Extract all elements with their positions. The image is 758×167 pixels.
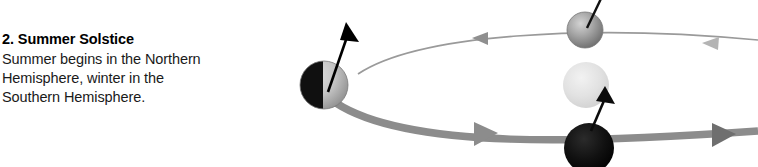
- caption-body: Summer begins in the Northern Hemisphere…: [2, 50, 287, 107]
- orbit-near-band: [336, 103, 758, 147]
- orbit-near-arrowhead-2: [712, 123, 736, 147]
- caption-line-2: Hemisphere, winter in the: [2, 69, 287, 88]
- earth-solstice-left: [300, 61, 348, 109]
- caption-title: 2. Summer Solstice: [2, 30, 287, 49]
- orbit-far-arrowhead-2: [702, 37, 719, 50]
- earth-axis-arrowhead-left: [340, 22, 359, 42]
- orbit-far-arrowhead-1: [472, 32, 488, 45]
- earth-night-side: [300, 61, 323, 109]
- sphere-black-bottom: [564, 123, 614, 167]
- sphere-gray-top: [567, 12, 603, 48]
- orbit-diagram-svg: [288, 0, 758, 167]
- orbit-near-arrowhead-1: [474, 122, 498, 146]
- caption-line-1: Summer begins in the Northern: [2, 50, 287, 69]
- earth-orbit-summer-solstice-diagram: [288, 0, 758, 167]
- caption-block: 2. Summer Solstice Summer begins in the …: [2, 30, 287, 107]
- orbit-far-arc: [358, 32, 758, 74]
- caption-line-3: Southern Hemisphere.: [2, 88, 287, 107]
